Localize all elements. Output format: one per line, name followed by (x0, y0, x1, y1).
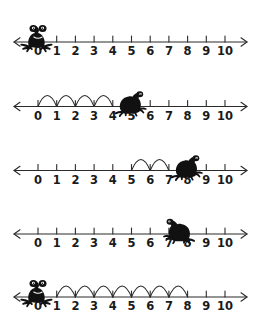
axis-tick-label: 6 (146, 109, 154, 123)
axis-tick-label: 10 (217, 173, 233, 187)
axis-tick-label: 5 (127, 299, 135, 313)
axis-tick-label: 1 (53, 109, 61, 123)
number-line-row: 012345678910 (14, 280, 247, 313)
jump-arc (132, 286, 151, 297)
frog-icon (115, 91, 147, 117)
number-line-row: 012345678910 (14, 155, 247, 186)
axis-tick-label: 10 (217, 236, 233, 250)
axis-tick-label: 8 (184, 44, 192, 58)
axis-tick-label: 4 (109, 44, 117, 58)
jump-arc (75, 286, 94, 297)
axis-tick-label: 9 (202, 109, 210, 123)
axis-tick-label: 4 (109, 236, 117, 250)
axis-tick-label: 2 (71, 299, 79, 313)
axis-tick-label: 9 (202, 236, 210, 250)
axis-tick-label: 0 (34, 173, 42, 187)
axis-tick-label: 9 (202, 299, 210, 313)
axis-tick-label: 1 (53, 173, 61, 187)
jump-arc (132, 160, 151, 171)
worksheet-canvas: 0123456789100123456789100123456789100123… (0, 0, 260, 320)
axis-tick-label: 9 (202, 173, 210, 187)
axis-tick-label: 3 (90, 236, 98, 250)
frog-icon (171, 155, 203, 181)
axis-tick-label: 1 (53, 44, 61, 58)
axis-tick-label: 10 (217, 109, 233, 123)
jump-arc (57, 96, 76, 107)
axis-tick-label: 4 (109, 109, 117, 123)
axis-tick-label: 7 (165, 44, 173, 58)
jump-arc (94, 286, 113, 297)
axis-tick-label: 7 (165, 109, 173, 123)
axis-tick-label: 2 (71, 173, 79, 187)
axis-tick-label: 10 (217, 44, 233, 58)
axis-tick-label: 1 (53, 299, 61, 313)
axis-tick-label: 3 (90, 173, 98, 187)
number-line-rows: 0123456789100123456789100123456789100123… (14, 25, 247, 313)
axis-tick-label: 3 (90, 109, 98, 123)
axis-tick-label: 2 (71, 109, 79, 123)
axis-tick-label: 2 (71, 236, 79, 250)
axis-tick-label: 0 (34, 236, 42, 250)
number-line-row: 012345678910 (14, 25, 247, 58)
jump-arc (75, 96, 94, 107)
number-line-row: 012345678910 (14, 219, 247, 250)
axis-tick-label: 6 (146, 44, 154, 58)
jump-arc (57, 286, 76, 297)
jump-arc (113, 286, 132, 297)
axis-tick-label: 2 (71, 44, 79, 58)
jump-arc (150, 286, 169, 297)
axis-tick-label: 7 (165, 299, 173, 313)
axis-tick-label: 4 (109, 299, 117, 313)
axis-tick-label: 7 (165, 173, 173, 187)
axis-tick-label: 5 (127, 173, 135, 187)
axis-tick-label: 5 (127, 44, 135, 58)
axis-tick-label: 0 (34, 109, 42, 123)
axis-tick-label: 3 (90, 44, 98, 58)
axis-tick-label: 4 (109, 173, 117, 187)
jump-arc (150, 160, 169, 171)
axis-tick-label: 3 (90, 299, 98, 313)
jump-arc (38, 96, 57, 107)
axis-tick-label: 1 (53, 236, 61, 250)
axis-tick-label: 6 (146, 173, 154, 187)
axis-tick-label: 8 (184, 109, 192, 123)
axis-tick-label: 6 (146, 236, 154, 250)
number-line-row: 012345678910 (14, 91, 247, 122)
jump-arc (169, 286, 188, 297)
axis-tick-label: 5 (127, 236, 135, 250)
number-line-worksheet: 0123456789100123456789100123456789100123… (0, 0, 260, 320)
axis-tick-label: 6 (146, 299, 154, 313)
axis-tick-label: 8 (184, 299, 192, 313)
axis-tick-label: 10 (217, 299, 233, 313)
axis-tick-label: 9 (202, 44, 210, 58)
jump-arc (94, 96, 113, 107)
